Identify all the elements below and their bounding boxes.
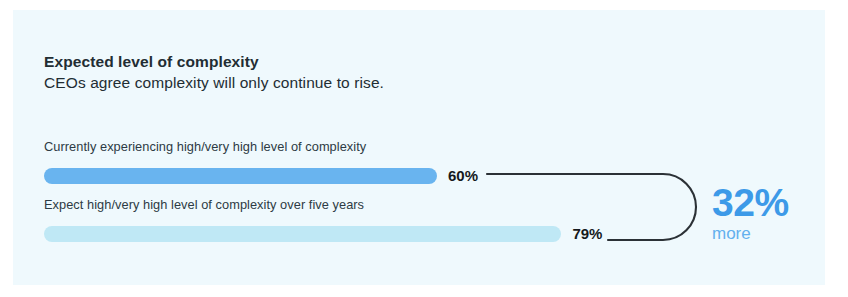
bar-group-currently-experiencing: Currently experiencing high/very high le… <box>44 139 478 184</box>
bar-fill <box>44 226 561 242</box>
callout-unit: more <box>712 224 822 244</box>
bar-fill <box>44 168 437 184</box>
bar-value-label: 79% <box>572 225 602 242</box>
page-subtitle: CEOs agree complexity will only continue… <box>44 72 564 94</box>
bar-group-expect-five-years: Expect high/very high level of complexit… <box>44 197 602 242</box>
page-title: Expected level of complexity <box>44 52 564 72</box>
bar-label: Expect high/very high level of complexit… <box>44 197 602 213</box>
callout-value: 32% <box>712 183 822 223</box>
bar-row: 60% <box>44 167 478 184</box>
infographic-figure: Expected level of complexity CEOs agree … <box>0 0 848 297</box>
bar-row: 79% <box>44 225 602 242</box>
callout-annotation: 32% more <box>712 183 822 244</box>
heading-block: Expected level of complexity CEOs agree … <box>44 52 564 94</box>
bar-label: Currently experiencing high/very high le… <box>44 139 478 155</box>
bar-value-label: 60% <box>448 167 478 184</box>
